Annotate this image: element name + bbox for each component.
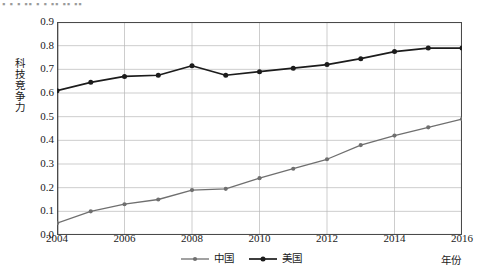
data-point-china [392,134,396,138]
legend-swatch-usa [248,254,278,264]
y-tick-label: 0.2 [20,182,54,193]
y-tick-label: 0.8 [20,40,54,51]
y-tick-label: 0.3 [20,158,54,169]
data-point-china [460,117,462,121]
x-tick-label: 2008 [172,232,212,244]
x-tick-label: 2012 [307,232,347,244]
data-point-usa [426,46,431,51]
data-point-usa [223,73,228,78]
y-tick-label: 0.9 [20,16,54,27]
data-point-china [359,143,363,147]
data-point-usa [156,73,161,78]
legend-item-china[interactable]: 中国 [180,253,234,265]
data-point-china [57,221,59,225]
data-point-china [224,187,228,191]
x-tick-label: 2016 [442,232,482,244]
data-point-china [89,209,93,213]
data-point-usa [460,46,463,51]
x-tick-label: 2010 [240,232,280,244]
y-tick-label: 0.1 [20,205,54,216]
data-point-china [122,202,126,206]
data-point-usa [325,62,330,67]
data-point-china [325,157,329,161]
legend-label: 中国 [214,253,234,265]
plot-area [57,22,462,235]
y-tick-label: 0.6 [20,87,54,98]
y-tick-label: 0.5 [20,111,54,122]
x-tick-label: 2006 [105,232,145,244]
legend-swatch-china [180,254,210,264]
legend-label: 美国 [282,253,302,265]
data-point-china [156,197,160,201]
chart-legend: 中国美国 [0,250,482,268]
y-axis-tick-labels: 0.90.80.70.60.50.40.30.20.10.0 [14,0,54,240]
data-point-china [426,125,430,129]
data-point-usa [392,49,397,54]
data-point-usa [358,56,363,61]
x-tick-label: 2014 [375,232,415,244]
data-point-usa [57,88,60,93]
y-tick-label: 0.7 [20,63,54,74]
chart-figure: ▪ ▪ ▪ ▪▪ ▪ ▪ ▪▪ ▪▪ ▪▪ 科技竞争力 0.90.80.70.6… [0,0,482,271]
data-point-usa [122,74,127,79]
data-point-china [190,188,194,192]
data-point-usa [291,66,296,71]
x-tick-label: 2004 [37,232,77,244]
data-point-china [291,167,295,171]
y-tick-label: 0.4 [20,134,54,145]
data-point-usa [257,69,262,74]
chart-canvas [57,22,462,235]
legend-item-usa[interactable]: 美国 [248,253,302,265]
data-point-usa [88,80,93,85]
data-point-china [257,176,261,180]
data-point-usa [190,63,195,68]
